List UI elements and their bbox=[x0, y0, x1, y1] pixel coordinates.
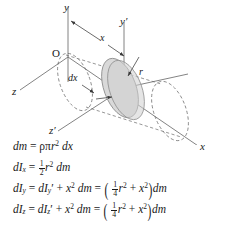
y-axis-label: y bbox=[64, 2, 69, 13]
eq-dIy-rexp: 2 bbox=[123, 181, 127, 190]
equation-list: dm = ρπr2 dx dIx = 1 2 r2 dm dIy = dIy′ … bbox=[0, 139, 227, 223]
eq-dIz-rexp: 2 bbox=[122, 202, 126, 211]
eq-dIz-dm: dm bbox=[77, 203, 91, 215]
frac-denominator: 4 bbox=[111, 210, 117, 219]
eq-dIz-rparen: ) bbox=[148, 200, 152, 220]
eq-dIy-lparen: ( bbox=[104, 179, 108, 199]
frac-numerator: 1 bbox=[111, 202, 117, 210]
frac-numerator: 1 bbox=[112, 181, 118, 189]
eq-dIz-equals-2: = bbox=[94, 203, 101, 215]
z-axis-label: z bbox=[12, 86, 16, 97]
eq-dm-lhs-m: m bbox=[19, 140, 27, 152]
z-prime-axis-label: z′ bbox=[49, 125, 56, 136]
z-axis-line bbox=[20, 57, 68, 90]
eq-dIz-xexp2: 2 bbox=[143, 202, 147, 211]
eq-dIx-sub: x bbox=[23, 165, 26, 174]
fraction-one-quarter-z: 1 4 bbox=[111, 202, 117, 219]
distance-x-label: x bbox=[100, 33, 104, 43]
fraction-one-half: 1 2 bbox=[39, 160, 45, 177]
eq-dm-equals: = bbox=[30, 140, 37, 152]
equation-dm: dm = ρπr2 dx bbox=[0, 139, 227, 160]
eq-dm-dx: dx bbox=[62, 140, 73, 152]
eq-dIy-dm2: dm bbox=[153, 182, 167, 194]
eq-dm-exp: 2 bbox=[55, 139, 59, 148]
eq-dIz-sub: z bbox=[23, 207, 26, 216]
equation-dIx: dIx = 1 2 r2 dm bbox=[0, 160, 227, 181]
eq-dIz-xexp: 2 bbox=[70, 202, 74, 211]
distance-x-arrow-right bbox=[108, 45, 124, 56]
dx-label: dx bbox=[68, 73, 77, 83]
eq-dIy-plus2: + bbox=[130, 182, 137, 194]
eq-dIy-plus: + bbox=[57, 182, 64, 194]
eq-dIy-prime: ′ bbox=[51, 182, 54, 194]
equation-dIz: dIz = dIz′ + x2 dm = ( 1 4 r2 + x2)dm bbox=[0, 202, 227, 223]
y-prime-axis-label: y′ bbox=[120, 16, 127, 27]
eq-dIz-plus: + bbox=[56, 203, 63, 215]
eq-dIx-dm: dm bbox=[56, 161, 70, 173]
eq-dIy-equals-1: = bbox=[29, 182, 36, 194]
origin-label: O bbox=[52, 48, 60, 59]
eq-dIy-xexp: 2 bbox=[71, 181, 75, 190]
eq-dIy-equals-2: = bbox=[95, 182, 102, 194]
figure-container: y y′ x z z′ O x dx r dm = ρπr2 dx dIx = … bbox=[0, 0, 227, 234]
eq-dIx-equals: = bbox=[29, 161, 36, 173]
eq-dIz-lparen: ( bbox=[104, 200, 108, 220]
eq-dIz-dm2: dm bbox=[152, 203, 166, 215]
equation-dIy: dIy = dIy′ + x2 dm = ( 1 4 r2 + x2)dm bbox=[0, 181, 227, 202]
radius-r-label: r bbox=[139, 67, 143, 77]
frac-numerator: 1 bbox=[39, 160, 45, 168]
eq-dIy-dm: dm bbox=[78, 182, 92, 194]
eq-dIy-sub: y bbox=[23, 186, 26, 195]
distance-x-arrow-left bbox=[71, 21, 100, 40]
eq-dIx-exp: 2 bbox=[50, 160, 54, 169]
eq-dIz-prime: ′ bbox=[50, 203, 53, 215]
frac-denominator: 2 bbox=[39, 168, 45, 177]
eq-dIz-plus2: + bbox=[129, 203, 136, 215]
eq-dIy-xexp2: 2 bbox=[144, 181, 148, 190]
fraction-one-quarter-y: 1 4 bbox=[112, 181, 118, 198]
cylinder-far-end-ellipse bbox=[144, 76, 195, 145]
elemental-disk bbox=[94, 53, 151, 124]
frac-denominator: 4 bbox=[112, 189, 118, 198]
eq-dIz-equals-1: = bbox=[28, 203, 35, 215]
eq-dIy-rparen: ) bbox=[148, 179, 152, 199]
cylinder-diagram bbox=[0, 0, 227, 145]
